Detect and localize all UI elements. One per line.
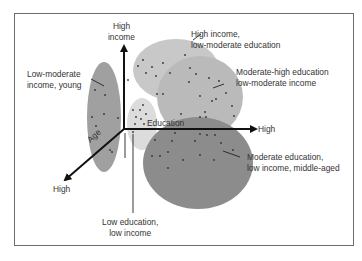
label-middle-aged: Moderate education, low income, middle-a… [247,152,340,173]
age-axis-end-label: High [53,184,70,195]
cluster-middle-aged [143,117,253,209]
education-axis-label: Education [147,118,184,129]
cluster-diagram [0,0,362,261]
label-low-edu: Low education, low income [102,217,158,238]
income-axis-label: High income [108,21,135,42]
label-young: Low-moderate income, young [27,69,81,90]
label-mod-high-edu: Moderate-high education low-moderate inc… [236,67,329,88]
label-high-income: High income, low-moderate education [191,29,280,50]
education-axis-end-label: High [258,124,275,135]
